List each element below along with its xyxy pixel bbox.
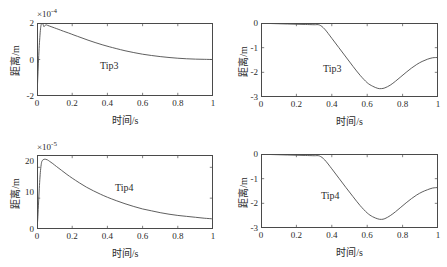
xtick-label: 0.2 <box>291 230 302 240</box>
plot-area-top-left: Tip3 <box>37 23 213 96</box>
plot-area-top-right: Tip3 <box>261 23 438 97</box>
xtick-label: 1 <box>436 99 441 109</box>
chart-panel-top-left: ×10-4 距离/m Tip3 2 0 -2 0 0.2 0.4 0.6 0.8… <box>0 0 223 133</box>
figure-grid: ×10-4 距离/m Tip3 2 0 -2 0 0.2 0.4 0.6 0.8… <box>0 0 447 267</box>
ytick-label: -2 <box>23 91 34 101</box>
series-annotation-bottom-right: Tip4 <box>321 190 340 201</box>
ytick-label: -3 <box>245 223 258 233</box>
y-axis-label-top-left: 距离/m <box>7 31 22 91</box>
series-line <box>261 23 438 88</box>
ytick-label: -2 <box>245 198 258 208</box>
xtick-label: 1 <box>436 230 441 240</box>
chart-panel-bottom-left: ×10-5 距离/m Tip4 20 10 0 0 0.2 0.4 0.6 0.… <box>0 133 223 267</box>
ytick-label: 0 <box>245 18 258 28</box>
series-line <box>37 159 213 229</box>
xtick-label: 0.2 <box>291 99 302 109</box>
xtick-label: 0.8 <box>172 231 183 241</box>
series-canvas-top-right <box>261 23 438 97</box>
xtick-label: 1 <box>211 98 216 108</box>
series-annotation-top-right: Tip3 <box>323 63 342 74</box>
ytick-label: 0 <box>23 55 34 65</box>
xtick-label: 0.4 <box>102 98 113 108</box>
x-axis-label-top-left: 时间/s <box>37 112 213 127</box>
xtick-label: 0.6 <box>362 230 373 240</box>
y-exponent-top-left: ×10-4 <box>37 7 57 19</box>
series-annotation-top-left: Tip3 <box>100 60 119 71</box>
series-canvas-top-left <box>37 23 213 96</box>
y-axis-label-bottom-right: 距离/m <box>235 163 250 223</box>
xtick-label: 0.6 <box>137 231 148 241</box>
series-annotation-bottom-left: Tip4 <box>115 182 134 193</box>
x-axis-label-top-right: 时间/s <box>261 113 438 128</box>
ytick-label: -1 <box>245 174 258 184</box>
xtick-label: 0 <box>35 231 40 241</box>
xtick-label: 0 <box>35 98 40 108</box>
xtick-label: 0.4 <box>326 99 337 109</box>
xtick-label: 0.2 <box>67 98 78 108</box>
ytick-label: 10 <box>18 187 34 197</box>
xtick-label: 0 <box>259 99 264 109</box>
chart-panel-bottom-right: 距离/m Tip4 0 -1 -2 -3 0 0.2 0.4 0.6 0.8 1… <box>223 133 447 267</box>
y-axis-label-top-right: 距离/m <box>235 32 250 92</box>
ytick-label: 20 <box>18 156 34 166</box>
xtick-label: 0.4 <box>326 230 337 240</box>
xtick-label: 0.8 <box>172 98 183 108</box>
footer-strip <box>0 257 447 267</box>
series-line <box>261 154 438 219</box>
xtick-label: 0.8 <box>397 99 408 109</box>
series-canvas-bottom-right <box>261 154 438 228</box>
xtick-label: 1 <box>211 231 216 241</box>
y-exponent-bottom-left: ×10-5 <box>37 140 57 152</box>
ytick-label: 0 <box>245 149 258 159</box>
ytick-label: -3 <box>245 92 258 102</box>
xtick-label: 0.8 <box>397 230 408 240</box>
plot-area-bottom-right: Tip4 <box>261 154 438 228</box>
xtick-label: 0.6 <box>137 98 148 108</box>
chart-panel-top-right: 距离/m Tip3 0 -1 -2 -3 0 0.2 0.4 0.6 0.8 1… <box>223 0 447 133</box>
ytick-label: 2 <box>23 18 34 28</box>
ytick-label: -1 <box>245 43 258 53</box>
ytick-label: -2 <box>245 67 258 77</box>
xtick-label: 0.6 <box>362 99 373 109</box>
ytick-label: 0 <box>18 224 34 234</box>
xtick-label: 0.4 <box>102 231 113 241</box>
series-line <box>37 23 213 96</box>
xtick-label: 0 <box>259 230 264 240</box>
xtick-label: 0.2 <box>67 231 78 241</box>
plot-area-bottom-left: Tip4 <box>37 155 213 229</box>
